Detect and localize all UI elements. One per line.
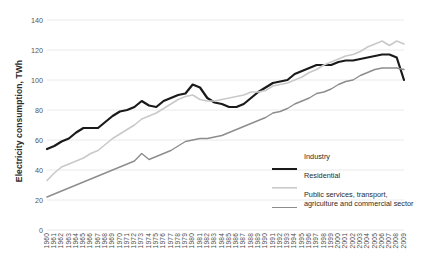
y-axis-tick-labels: 020406080100120140: [14, 20, 43, 230]
x-tick-label: 2001: [342, 233, 348, 248]
x-tick-label: 1960: [44, 233, 50, 248]
y-tick-label: 20: [17, 197, 43, 204]
x-tick-label: 1964: [73, 233, 79, 248]
y-tick-label: 60: [17, 137, 43, 144]
x-tick-label: 2004: [364, 233, 370, 248]
x-tick-label: 1977: [168, 233, 174, 248]
legend-swatch-icon: [272, 194, 297, 212]
series-line-0: [47, 55, 404, 150]
x-axis-tick-labels: 1960196119621963196419651966196719681969…: [47, 233, 404, 273]
x-tick-label: 2005: [372, 233, 378, 248]
legend-label: Residential: [304, 171, 422, 180]
y-tick-label: 80: [17, 107, 43, 114]
x-tick-label: 2009: [401, 233, 407, 248]
x-tick-label: 1966: [87, 233, 93, 248]
chart-legend: IndustryResidentialPublic services, tran…: [272, 152, 422, 216]
x-tick-label: 1994: [291, 233, 297, 248]
x-tick-label: 1973: [138, 233, 144, 248]
y-tick-label: 140: [17, 17, 43, 24]
x-tick-label: 2008: [393, 233, 399, 248]
x-tick-label: 1981: [197, 233, 203, 248]
x-tick-label: 1999: [328, 233, 334, 248]
x-tick-label: 1970: [117, 233, 123, 248]
legend-item-0: Industry: [272, 152, 422, 163]
x-tick-label: 1985: [226, 233, 232, 248]
x-tick-label: 1967: [95, 233, 101, 248]
x-tick-label: 1963: [66, 233, 72, 248]
x-tick-label: 2006: [379, 233, 385, 248]
legend-label: Industry: [304, 152, 422, 161]
x-tick-label: 1995: [299, 233, 305, 248]
y-tick-label: 100: [17, 77, 43, 84]
y-tick-label: 40: [17, 167, 43, 174]
legend-label: Public services, transport, agriculture …: [304, 190, 422, 208]
x-tick-label: 1987: [240, 233, 246, 248]
x-tick-label: 1997: [313, 233, 319, 248]
x-tick-label: 1971: [124, 233, 130, 248]
line-chart: Electricity consumption, TWh 02040608010…: [0, 0, 424, 273]
x-tick-label: 1990: [262, 233, 268, 248]
x-tick-label: 1976: [160, 233, 166, 248]
x-tick-label: 1991: [270, 233, 276, 248]
x-tick-label: 2002: [350, 233, 356, 248]
x-tick-label: 1980: [189, 233, 195, 248]
x-tick-label: 1998: [321, 233, 327, 248]
x-tick-label: 1992: [277, 233, 283, 248]
x-tick-label: 1978: [175, 233, 181, 248]
x-tick-label: 1988: [248, 233, 254, 248]
x-tick-label: 1983: [211, 233, 217, 248]
x-tick-label: 1962: [58, 233, 64, 248]
x-tick-label: 1969: [109, 233, 115, 248]
x-tick-label: 1984: [219, 233, 225, 248]
x-tick-label: 1974: [146, 233, 152, 248]
legend-item-1: Residential: [272, 171, 422, 182]
y-tick-label: 120: [17, 47, 43, 54]
legend-item-2: Public services, transport, agriculture …: [272, 190, 422, 208]
y-tick-label: 0: [17, 227, 43, 234]
